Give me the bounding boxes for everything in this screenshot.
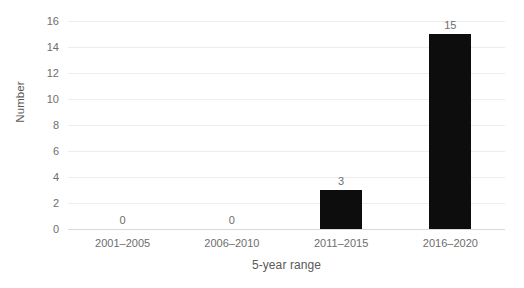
bar-value-label: 3: [338, 175, 344, 187]
y-tick-label: 14: [47, 41, 59, 53]
y-tick-label: 12: [47, 67, 59, 79]
y-tick-label: 16: [47, 15, 59, 27]
bar-value-label: 15: [444, 19, 456, 31]
bar[interactable]: [429, 34, 471, 229]
y-tick-label: 2: [53, 197, 59, 209]
x-tick-label: 2016–2020: [423, 237, 478, 249]
plot-area: 024681012141602001–200502006–201032011–2…: [68, 21, 505, 229]
y-axis-title: Number: [14, 60, 26, 144]
x-axis-line: 0: [68, 229, 505, 230]
x-axis-title: 5-year range: [68, 258, 505, 272]
bar[interactable]: [320, 190, 362, 229]
bar-group: 02006–2010: [177, 21, 286, 229]
x-tick-label: 2001–2005: [95, 237, 150, 249]
bar-value-label: 0: [229, 214, 235, 226]
y-tick-label: 4: [53, 171, 59, 183]
bar-group: 152016–2020: [396, 21, 505, 229]
y-tick-label: 10: [47, 93, 59, 105]
y-tick-label: 0: [53, 223, 59, 235]
bar-chart: Number 024681012141602001–200502006–2010…: [0, 0, 524, 288]
bar-value-label: 0: [120, 214, 126, 226]
y-tick-label: 8: [53, 119, 59, 131]
x-tick-label: 2006–2010: [204, 237, 259, 249]
x-tick-label: 2011–2015: [314, 237, 368, 249]
y-tick-label: 6: [53, 145, 59, 157]
bar-group: 02001–2005: [68, 21, 177, 229]
bar-group: 32011–2015: [287, 21, 396, 229]
